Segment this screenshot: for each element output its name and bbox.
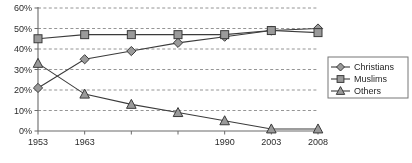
marker-square [174,31,182,39]
y-axis-tick-label: 10% [14,106,32,116]
chart-canvas: 0%10%20%30%40%50%60%19531963199020032008… [0,0,412,163]
y-axis-tick-label: 0% [19,126,32,136]
x-axis-tick-label: 2008 [308,137,328,147]
x-axis-ticks: 19531963199020032008 [28,131,328,147]
legend-item-label: Others [354,86,382,96]
y-axis-tick-label: 60% [14,3,32,13]
series-line [38,63,318,129]
legend-item-muslims: Muslims [331,74,387,84]
marker-square [221,31,229,39]
marker-square [34,35,42,43]
x-axis-tick-label: 1963 [75,137,95,147]
y-gridlines: 0%10%20%30%40%50%60% [14,3,318,136]
x-axis-tick-label: 1990 [215,137,235,147]
legend-item-christians: Christians [331,62,395,72]
marker-square [314,29,322,37]
series-group [33,24,323,133]
marker-diamond [127,46,136,55]
y-axis-tick-label: 20% [14,85,32,95]
line-chart: 0%10%20%30%40%50%60%19531963199020032008… [0,0,412,163]
marker-diamond [173,38,182,47]
legend: ChristiansMuslimsOthers [328,57,408,98]
marker-square [81,31,89,39]
marker-triangle [33,58,43,67]
marker-square [337,76,344,83]
x-axis-tick-label: 2003 [261,137,281,147]
y-axis-tick-label: 30% [14,65,32,75]
x-axis-tick-label: 1953 [28,137,48,147]
legend-item-label: Christians [354,62,395,72]
marker-square [127,31,135,39]
y-axis-tick-label: 50% [14,24,32,34]
marker-diamond [80,55,89,64]
marker-diamond [33,83,42,92]
marker-triangle [80,89,90,98]
legend-item-label: Muslims [354,74,387,84]
series-others [38,63,318,129]
y-axis-tick-label: 40% [14,44,32,54]
marker-square [267,27,275,35]
